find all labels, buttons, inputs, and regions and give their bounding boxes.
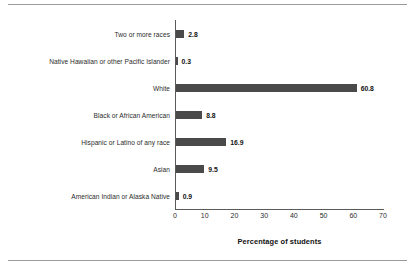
bar-value-label: 16.9 xyxy=(230,139,243,146)
bar-row: Hispanic or Latino of any race16.9 xyxy=(175,129,383,156)
x-axis-title: Percentage of students xyxy=(175,237,384,246)
x-tick-label: 50 xyxy=(320,212,328,219)
x-tick-label: 70 xyxy=(379,212,387,219)
bar-value-label: 0.9 xyxy=(183,193,192,200)
bar-value-label: 60.8 xyxy=(361,84,374,91)
bar-value-label: 2.8 xyxy=(188,30,197,37)
bar-row: Black or African American8.8 xyxy=(175,101,383,128)
bar xyxy=(176,138,226,146)
category-label: American Indian or Alaska Native xyxy=(71,193,170,200)
category-label: Black or African American xyxy=(94,111,170,118)
plot-area: Two or more races2.8Native Hawaiian or o… xyxy=(175,20,383,210)
bar xyxy=(176,192,179,200)
bar-row: Asian9.5 xyxy=(175,156,383,183)
x-tick-label: 60 xyxy=(349,212,357,219)
bar xyxy=(176,57,178,65)
bar-value-label: 0.3 xyxy=(182,57,191,64)
category-label: Native Hawaiian or other Pacific Islande… xyxy=(49,57,170,64)
bar xyxy=(176,30,184,38)
bar-value-label: 9.5 xyxy=(208,166,217,173)
bar-row: American Indian or Alaska Native0.9 xyxy=(175,183,383,210)
category-label: Asian xyxy=(153,166,170,173)
bar-row: White60.8 xyxy=(175,74,383,101)
bar xyxy=(176,111,202,119)
x-tick-label: 20 xyxy=(231,212,239,219)
bar-value-label: 8.8 xyxy=(206,111,215,118)
bar xyxy=(176,165,204,173)
bar xyxy=(176,84,357,92)
bottom-divider-rule xyxy=(8,260,407,261)
bar-row: Two or more races2.8 xyxy=(175,20,383,47)
top-divider-rule xyxy=(8,4,407,5)
category-label: Hispanic or Latino of any race xyxy=(81,139,170,146)
x-tick-label: 0 xyxy=(173,212,177,219)
x-tick-label: 10 xyxy=(201,212,209,219)
x-tick-label: 30 xyxy=(260,212,268,219)
category-label: White xyxy=(153,84,170,91)
figure-container: Two or more races2.8Native Hawaiian or o… xyxy=(0,0,415,269)
x-tick-label: 40 xyxy=(290,212,298,219)
category-label: Two or more races xyxy=(115,30,170,37)
bar-row: Native Hawaiian or other Pacific Islande… xyxy=(175,47,383,74)
